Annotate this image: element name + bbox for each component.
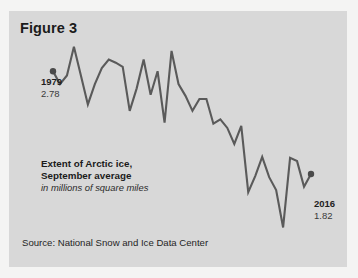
series-title-line1: Extent of Arctic ice, (41, 158, 132, 169)
series-subtitle: in millions of square miles (41, 182, 148, 193)
end-point-marker (308, 171, 314, 177)
start-point-marker (50, 68, 56, 74)
source-note: Source: National Snow and Ice Data Cente… (22, 237, 208, 248)
figure-title: Figure 3 (20, 20, 77, 36)
start-year-label: 1979 (41, 76, 62, 87)
start-value-label: 2.78 (41, 88, 60, 99)
series-title-line2: September average (41, 170, 131, 181)
figure-container: Figure 3 1979 2.78 2016 1.82 Extent of A… (0, 0, 358, 278)
ice-extent-line (53, 47, 311, 228)
end-year-label: 2016 (314, 198, 335, 209)
end-value-label: 1.82 (314, 210, 333, 221)
